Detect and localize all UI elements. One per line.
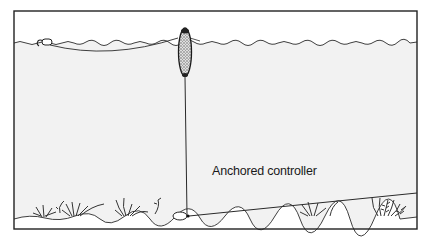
water-body: [14, 39, 417, 229]
diagram-canvas: Anchored controller: [0, 0, 433, 246]
float-controller-icon: [179, 28, 192, 77]
fishing-rig-diagram: [0, 0, 433, 246]
anchored-controller-label: Anchored controller: [212, 164, 317, 178]
